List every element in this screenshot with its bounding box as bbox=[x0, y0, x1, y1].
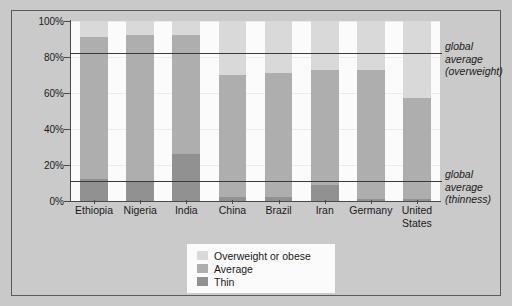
x-tick-label: Iran bbox=[302, 204, 348, 217]
x-tick-label: India bbox=[163, 204, 209, 217]
reference-line-thinness bbox=[70, 181, 442, 182]
bar-segment-thin bbox=[126, 181, 154, 201]
bar-segment-average bbox=[126, 35, 154, 181]
legend-swatch-icon bbox=[197, 264, 208, 273]
x-tick-label-line: Germany bbox=[348, 204, 394, 217]
bar-segment-overweight bbox=[172, 21, 200, 35]
bar-segment-thin bbox=[172, 154, 200, 201]
bar-segment-overweight bbox=[265, 21, 293, 73]
stacked-bar bbox=[80, 21, 108, 201]
bar-group bbox=[357, 21, 385, 201]
reference-label-thinness: globalaverage(thinness) bbox=[445, 168, 491, 206]
bar-segment-average bbox=[403, 98, 431, 199]
y-axis-line bbox=[70, 20, 71, 202]
x-tick-label: Nigeria bbox=[117, 204, 163, 217]
bar-segment-average bbox=[311, 70, 339, 185]
bar-group bbox=[403, 21, 431, 201]
x-tick-label-line: China bbox=[209, 204, 255, 217]
stacked-bar bbox=[311, 21, 339, 201]
bar-group bbox=[311, 21, 339, 201]
stacked-bar bbox=[219, 21, 247, 201]
legend-label: Average bbox=[214, 263, 253, 275]
reference-label-line: average bbox=[445, 181, 491, 194]
x-tick-label: Germany bbox=[348, 204, 394, 217]
reference-label-line: global bbox=[445, 40, 503, 53]
bar-segment-overweight bbox=[219, 21, 247, 75]
x-tick-label-line: United bbox=[394, 204, 440, 217]
legend-item: Average bbox=[197, 262, 311, 275]
x-tick-label: UnitedStates bbox=[394, 204, 440, 229]
y-tick-label: 40% bbox=[20, 124, 64, 135]
bar-group bbox=[172, 21, 200, 201]
bar-segment-overweight bbox=[80, 21, 108, 37]
y-axis-ticks: 100%80%60%40%20%0% bbox=[12, 11, 64, 297]
bar-segment-average bbox=[219, 75, 247, 197]
reference-label-line: (thinness) bbox=[445, 193, 491, 206]
x-tick-label: China bbox=[209, 204, 255, 217]
bar-group bbox=[126, 21, 154, 201]
bar-segment-average bbox=[80, 37, 108, 179]
reference-label-line: global bbox=[445, 168, 491, 181]
y-tick-label: 0% bbox=[20, 196, 64, 207]
bar-segment-thin bbox=[80, 179, 108, 201]
stacked-bar bbox=[126, 21, 154, 201]
legend-label: Overweight or obese bbox=[214, 250, 311, 262]
x-tick-label-line: Ethiopia bbox=[71, 204, 117, 217]
legend-swatch-icon bbox=[197, 251, 208, 260]
bar-segment-average bbox=[265, 73, 293, 197]
bar-group bbox=[265, 21, 293, 201]
stacked-bar bbox=[357, 21, 385, 201]
bar-segment-overweight bbox=[311, 21, 339, 70]
bar-segment-thin bbox=[311, 185, 339, 201]
x-tick-label-line: Nigeria bbox=[117, 204, 163, 217]
stacked-bar bbox=[403, 21, 431, 201]
chart-card: 100%80%60%40%20%0% globalaverage(overwei… bbox=[11, 10, 501, 296]
plot-area bbox=[71, 21, 440, 201]
x-axis-line bbox=[70, 201, 441, 202]
x-tick-label-line: Brazil bbox=[256, 204, 302, 217]
chart-legend: Overweight or obeseAverageThin bbox=[187, 244, 335, 293]
legend-item: Overweight or obese bbox=[197, 249, 311, 262]
y-tick-label: 20% bbox=[20, 160, 64, 171]
bar-segment-average bbox=[357, 70, 385, 200]
bar-segment-overweight bbox=[357, 21, 385, 70]
reference-label-line: (overweight) bbox=[445, 65, 503, 78]
legend-swatch-icon bbox=[197, 277, 208, 286]
stacked-bar bbox=[172, 21, 200, 201]
x-tick-label-line: States bbox=[394, 217, 440, 230]
y-tick-label: 80% bbox=[20, 52, 64, 63]
bar-group bbox=[219, 21, 247, 201]
y-tick-label: 100% bbox=[20, 16, 64, 27]
bar-segment-overweight bbox=[126, 21, 154, 35]
x-tick-label-line: Iran bbox=[302, 204, 348, 217]
x-tick-label-line: India bbox=[163, 204, 209, 217]
reference-label-overweight: globalaverage(overweight) bbox=[445, 40, 503, 78]
legend-label: Thin bbox=[214, 276, 234, 288]
x-axis-ticks: EthiopiaNigeriaIndiaChinaBrazilIranGerma… bbox=[71, 204, 440, 244]
bar-segment-overweight bbox=[403, 21, 431, 98]
stacked-bar bbox=[265, 21, 293, 201]
y-tick-label: 60% bbox=[20, 88, 64, 99]
reference-line-overweight bbox=[70, 53, 442, 54]
bar-group bbox=[80, 21, 108, 201]
x-tick-label: Brazil bbox=[256, 204, 302, 217]
x-tick-label: Ethiopia bbox=[71, 204, 117, 217]
reference-label-line: average bbox=[445, 53, 503, 66]
legend-item: Thin bbox=[197, 275, 311, 288]
